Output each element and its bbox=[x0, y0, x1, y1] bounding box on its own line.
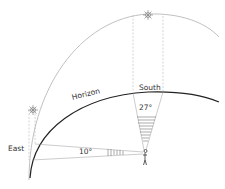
angle-east-label: 10° bbox=[79, 148, 92, 156]
horizon-arc bbox=[30, 92, 219, 178]
sun-high-icon bbox=[143, 10, 153, 20]
observer-figure bbox=[143, 150, 147, 166]
sun-low-icon bbox=[28, 105, 38, 115]
angle-south-label: 27° bbox=[139, 104, 152, 112]
south-cone-right bbox=[146, 92, 163, 150]
south-cone-left bbox=[133, 93, 144, 150]
east-label: East bbox=[8, 145, 24, 153]
diagram-canvas bbox=[0, 0, 225, 189]
south-label: South bbox=[139, 84, 161, 92]
